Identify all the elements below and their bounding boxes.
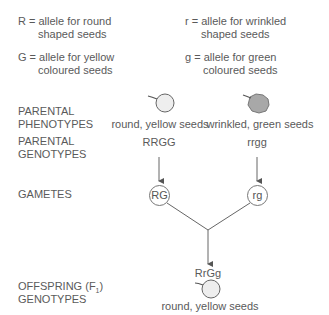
parent2-phenotype: wrinkled, green seeds — [200, 118, 320, 131]
cross-diagram — [0, 0, 329, 315]
parent1-genotype: RRGG — [129, 136, 189, 149]
offspring-genotype: RrGg — [178, 267, 238, 280]
round-seed-icon — [148, 94, 174, 112]
wrinkled-seed-icon — [243, 94, 269, 113]
round-seed-icon — [195, 280, 220, 298]
gamete-parent2: rg — [247, 185, 268, 206]
offspring-phenotype: round, yellow seeds — [150, 300, 270, 313]
parent2-genotype: rrgg — [227, 136, 287, 149]
gamete-parent1: RG — [149, 185, 170, 206]
